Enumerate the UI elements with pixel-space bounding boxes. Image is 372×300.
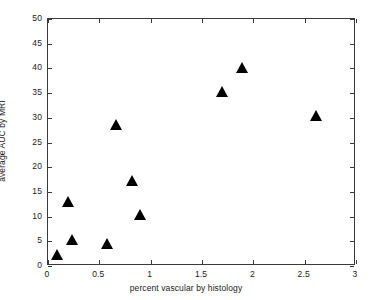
- y-axis-tick-right: [350, 93, 354, 94]
- x-axis-tick: [253, 260, 254, 264]
- y-axis-tick: [48, 192, 52, 193]
- x-axis-tick-top: [48, 19, 49, 23]
- y-axis-tick: [48, 93, 52, 94]
- y-axis-tick-label: 40: [32, 62, 42, 72]
- y-axis-tick: [48, 68, 52, 69]
- x-axis-tick-label: 0.5: [92, 269, 104, 279]
- x-axis-tick-top: [253, 19, 254, 23]
- y-axis-tick-right: [350, 68, 354, 69]
- data-point-marker: [101, 238, 113, 249]
- y-axis-tick-right: [350, 192, 354, 193]
- y-axis-tick-right: [350, 44, 354, 45]
- x-axis-tick-top: [202, 19, 203, 23]
- x-axis-tick: [202, 260, 203, 264]
- y-axis-tick-label: 50: [32, 13, 42, 23]
- data-point-marker: [110, 119, 122, 130]
- x-axis-tick-top: [151, 19, 152, 23]
- x-axis-tick-label: 2.5: [298, 269, 310, 279]
- data-point-marker: [126, 175, 138, 186]
- data-point-marker: [236, 62, 248, 73]
- y-axis-tick: [48, 44, 52, 45]
- x-axis-tick: [151, 260, 152, 264]
- x-axis-tick: [356, 260, 357, 264]
- y-axis-tick-label: 0: [37, 260, 42, 270]
- plot-area: [47, 18, 355, 265]
- data-point-marker: [66, 234, 78, 245]
- y-axis-tick-label: 35: [32, 87, 42, 97]
- x-axis-tick-label: 1: [147, 269, 152, 279]
- x-axis-tick: [305, 260, 306, 264]
- y-axis-tick: [48, 217, 52, 218]
- y-axis-tick-right: [350, 167, 354, 168]
- y-axis-tick-right: [350, 19, 354, 20]
- y-axis-tick-right: [350, 143, 354, 144]
- y-axis-tick: [48, 266, 52, 267]
- y-axis-tick-label: 25: [32, 137, 42, 147]
- y-axis-tick-right: [350, 266, 354, 267]
- y-axis-tick-label: 30: [32, 112, 42, 122]
- y-axis-tick-label: 5: [37, 235, 42, 245]
- x-axis-label: percent vascular by histology: [0, 283, 372, 293]
- y-axis-tick-right: [350, 241, 354, 242]
- scatter-chart-figure: 05101520253035404550 00.511.522.53 perce…: [0, 0, 372, 300]
- y-axis-tick-label: 45: [32, 38, 42, 48]
- x-axis-tick-label: 3: [353, 269, 358, 279]
- y-axis-tick: [48, 241, 52, 242]
- y-axis-label: average AUC by MRI: [0, 71, 7, 211]
- x-axis-tick-top: [99, 19, 100, 23]
- y-axis-tick-right: [350, 118, 354, 119]
- x-axis-tick-label: 0: [45, 269, 50, 279]
- y-axis-tick-label: 10: [32, 211, 42, 221]
- y-axis-tick-right: [350, 217, 354, 218]
- data-point-marker: [216, 86, 228, 97]
- data-point-marker: [62, 196, 74, 207]
- y-axis-tick: [48, 167, 52, 168]
- y-axis-tick: [48, 118, 52, 119]
- data-point-marker: [310, 110, 322, 121]
- x-axis-tick-label: 1.5: [195, 269, 207, 279]
- x-axis-tick-top: [356, 19, 357, 23]
- x-axis-tick: [48, 260, 49, 264]
- x-axis-tick-label: 2: [250, 269, 255, 279]
- y-axis-tick: [48, 143, 52, 144]
- y-axis-tick-label: 15: [32, 186, 42, 196]
- data-point-marker: [134, 209, 146, 220]
- x-axis-tick-top: [305, 19, 306, 23]
- x-axis-tick: [99, 260, 100, 264]
- y-axis-tick-label: 20: [32, 161, 42, 171]
- data-point-marker: [51, 249, 63, 260]
